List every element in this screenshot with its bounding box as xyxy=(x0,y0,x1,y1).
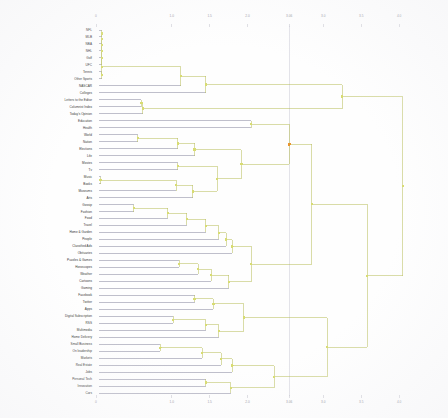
x-tick-label: 1.5 xyxy=(207,400,211,404)
x-tick-label: 3.0 xyxy=(321,400,325,404)
leaf-label: Today's Opinion xyxy=(0,112,92,116)
leaf-label: Museums xyxy=(0,189,92,193)
merge-node xyxy=(218,330,220,332)
leaf-label: Twitter xyxy=(0,300,92,304)
merge-node xyxy=(240,163,242,165)
merge-node xyxy=(250,123,252,125)
merge-node xyxy=(210,274,212,276)
merge-node xyxy=(172,319,174,321)
dendrogram-links xyxy=(99,30,403,393)
merge-node xyxy=(159,347,161,349)
x-tick-label: 3.06 xyxy=(286,400,292,404)
merge-node xyxy=(193,148,195,150)
merge-node xyxy=(231,364,233,366)
dendrogram-figure: NFLMLBNBANHLGolfUFCTennisOther SportsNAS… xyxy=(0,0,448,418)
merge-node xyxy=(326,346,328,348)
leaf-label: Other Sports xyxy=(0,77,92,81)
leaf-label: Letters to the Editor xyxy=(0,98,92,102)
merge-node xyxy=(225,238,227,240)
leaf-label: Elections xyxy=(0,147,92,151)
leaf-label: Life xyxy=(0,154,92,158)
merge-node xyxy=(101,32,103,34)
merge-node xyxy=(175,184,177,186)
merge-node xyxy=(99,179,101,181)
leaf-label: NFL xyxy=(0,28,92,32)
leaf-label: Colleges xyxy=(0,91,92,95)
merge-node xyxy=(101,66,103,68)
merge-node xyxy=(341,95,343,97)
leaf-label: Real Estate xyxy=(0,363,92,367)
leaf-label: NBA xyxy=(0,42,92,46)
merge-node xyxy=(101,50,103,52)
x-tick-label: 3.5 xyxy=(359,400,363,404)
axis-ticks-bottom xyxy=(96,395,399,398)
x-tick-label: 0 xyxy=(95,400,97,404)
leaf-label: Cartoons xyxy=(0,279,92,283)
merge-node xyxy=(212,303,214,305)
leaf-label: UFC xyxy=(0,63,92,67)
merge-node xyxy=(366,275,368,277)
leaf-label: Jobs xyxy=(0,370,92,374)
x-tick-label: 1.0 xyxy=(170,14,174,18)
leaf-label: Multimedia xyxy=(0,328,92,332)
merge-node xyxy=(201,352,203,354)
x-tick-label: 3.5 xyxy=(359,14,363,18)
merge-node xyxy=(133,207,135,209)
leaf-label: Tv xyxy=(0,168,92,172)
merge-node xyxy=(192,190,194,192)
leaf-label: Digital Subscription xyxy=(0,314,92,318)
merge-node xyxy=(101,38,103,40)
leaf-label: World xyxy=(0,133,92,137)
leaf-label: Obituaries xyxy=(0,251,92,255)
leaf-label: On leadership xyxy=(0,349,92,353)
leaf-label: Nation xyxy=(0,140,92,144)
x-tick-label: 1.5 xyxy=(207,14,211,18)
merge-node xyxy=(231,245,233,247)
leaf-label: Gaming xyxy=(0,286,92,290)
merge-node xyxy=(197,268,199,270)
leaf-label: Innovation xyxy=(0,384,92,388)
merge-node xyxy=(186,218,188,220)
leaf-label: MLB xyxy=(0,35,92,39)
merge-node xyxy=(220,358,222,360)
merge-node xyxy=(205,324,207,326)
leaf-label: Golf xyxy=(0,56,92,60)
leaf-label: Cars xyxy=(0,391,92,395)
x-tick-label: 3.06 xyxy=(286,14,292,18)
merge-node xyxy=(273,376,275,378)
leaf-label: Horoscopes xyxy=(0,265,92,269)
leaf-label: Food xyxy=(0,216,92,220)
merge-node xyxy=(140,102,142,104)
merge-node xyxy=(101,57,103,59)
leaf-label: Education xyxy=(0,119,92,123)
leaf-label: Travel xyxy=(0,223,92,227)
leaf-label: Tennis xyxy=(0,70,92,74)
merge-node xyxy=(230,387,232,389)
leaf-label: Music xyxy=(0,175,92,179)
leaf-label: Puzzles & Games xyxy=(0,258,92,262)
leaf-label: Apps xyxy=(0,307,92,311)
merge-node xyxy=(177,165,179,167)
leaf-label: Classified Ads xyxy=(0,244,92,248)
merge-node xyxy=(101,44,103,46)
merge-node xyxy=(180,75,182,77)
merge-node xyxy=(218,232,220,234)
leaf-label: Gossip xyxy=(0,203,92,207)
leaf-label: Personal Tech xyxy=(0,377,92,381)
x-tick-label: 4.0 xyxy=(397,14,401,18)
leaf-label: Books xyxy=(0,182,92,186)
leaf-label: Facebook xyxy=(0,293,92,297)
merge-node xyxy=(311,203,313,205)
merge-node xyxy=(228,281,230,283)
leaf-label: RSS xyxy=(0,321,92,325)
merge-node xyxy=(243,316,245,318)
x-tick-label: 2.0 xyxy=(245,14,249,18)
merge-node xyxy=(177,142,179,144)
merge-node xyxy=(205,83,207,85)
leaf-label: Weather xyxy=(0,272,92,276)
merge-node xyxy=(101,74,103,76)
leaf-label: Home Delivery xyxy=(0,335,92,339)
leaf-label: Arts xyxy=(0,196,92,200)
merge-node xyxy=(205,225,207,227)
merge-node xyxy=(216,178,218,180)
